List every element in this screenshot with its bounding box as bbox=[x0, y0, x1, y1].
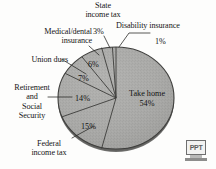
label-retirement-line4: Security bbox=[1, 111, 63, 120]
value-federal-income-tax: 15% bbox=[81, 122, 96, 131]
label-take-home-text: Take home bbox=[116, 89, 178, 99]
label-state-income-tax-line1: State bbox=[72, 1, 134, 10]
ppt-monitor-icon: PPT bbox=[185, 140, 211, 164]
label-medical-dental-insurance: Medical/dental insurance bbox=[8, 27, 92, 46]
ppt-monitor-base bbox=[185, 158, 207, 161]
label-retirement-line1: Retirement bbox=[1, 83, 63, 92]
chart-plot-area: State income tax 3% Disability insurance… bbox=[0, 0, 216, 169]
value-medical-dental-insurance: 6% bbox=[88, 60, 99, 69]
ppt-monitor-screen: PPT bbox=[186, 140, 206, 155]
label-medical-dental-line1: Medical/dental bbox=[8, 27, 92, 36]
label-state-income-tax: State income tax bbox=[72, 1, 134, 20]
value-union-dues: 7% bbox=[78, 74, 89, 83]
value-take-home: 54% bbox=[116, 99, 178, 109]
label-union-dues: Union dues bbox=[4, 55, 68, 64]
label-retirement-line3: Social bbox=[1, 102, 63, 111]
label-retirement-social-security: Retirement and Social Security bbox=[1, 83, 63, 121]
label-state-income-tax-line2: income tax bbox=[72, 10, 134, 19]
ppt-label: PPT bbox=[190, 144, 203, 152]
label-retirement-line2: and bbox=[1, 92, 63, 101]
label-federal-line2: income tax bbox=[16, 148, 82, 157]
label-medical-dental-line2: insurance bbox=[8, 36, 92, 45]
leader-state-income-tax bbox=[104, 36, 110, 48]
pie-chart-figure: State income tax 3% Disability insurance… bbox=[0, 0, 216, 169]
value-retirement-social-security: 14% bbox=[75, 94, 90, 103]
value-state-income-tax: 3% bbox=[93, 27, 104, 36]
label-take-home: Take home 54% bbox=[116, 89, 178, 108]
leader-disability-insurance bbox=[119, 33, 150, 47]
label-federal-income-tax: Federal income tax bbox=[16, 139, 82, 158]
value-disability-insurance: 1% bbox=[155, 37, 166, 46]
label-federal-line1: Federal bbox=[16, 139, 82, 148]
label-disability-insurance: Disability insurance bbox=[116, 21, 216, 30]
